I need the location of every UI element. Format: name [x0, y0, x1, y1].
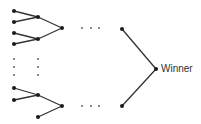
bracket-edge [38, 28, 62, 39]
ellipsis-dot [81, 27, 83, 29]
bracket-node [12, 31, 16, 35]
ellipsis-dot [98, 105, 100, 107]
bracket-edge [38, 95, 62, 106]
bracket-node [36, 37, 40, 41]
bracket-node [12, 86, 16, 90]
bracket-node [12, 20, 16, 24]
bracket-node [60, 26, 64, 30]
bracket-edge [14, 95, 38, 100]
ellipsis-dot [37, 74, 39, 76]
bracket-edge [38, 17, 62, 28]
bracket-edge [14, 17, 38, 22]
ellipsis-dot [37, 66, 39, 68]
ellipsis-dot [90, 27, 92, 29]
bracket-edge [38, 106, 62, 117]
bracket-node [36, 115, 40, 119]
bracket-node [12, 42, 16, 46]
bracket-edges [14, 11, 156, 117]
winner-node [154, 67, 158, 71]
ellipsis-dot [98, 27, 100, 29]
bracket-edge [14, 88, 38, 95]
bracket-node [120, 27, 124, 31]
ellipsis-dot [37, 58, 39, 60]
ellipsis-dot [13, 66, 15, 68]
bracket-edge [14, 39, 38, 44]
ellipsis-dots [13, 27, 100, 107]
ellipsis-dot [81, 105, 83, 107]
bracket-node [12, 98, 16, 102]
bracket-edge [14, 11, 38, 17]
bracket-node [36, 93, 40, 97]
ellipsis-dot [13, 74, 15, 76]
bracket-edge [122, 69, 156, 106]
bracket-edge [122, 29, 156, 69]
bracket-nodes [12, 9, 158, 119]
bracket-node [36, 15, 40, 19]
ellipsis-dot [13, 58, 15, 60]
tournament-bracket-diagram: Winner [0, 0, 201, 124]
bracket-edge [14, 33, 38, 39]
ellipsis-dot [90, 105, 92, 107]
bracket-node [120, 104, 124, 108]
bracket-node [12, 9, 16, 13]
winner-label: Winner [161, 62, 193, 76]
bracket-node [60, 104, 64, 108]
